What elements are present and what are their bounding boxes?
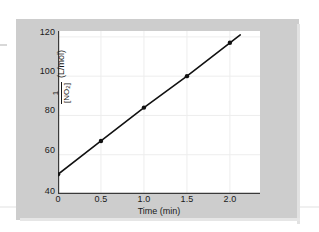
data-point-marker [185, 74, 189, 78]
x-tick-label-2-0: 2.0 [217, 194, 243, 204]
plot-canvas [58, 31, 260, 194]
denominator-open: [NO [62, 89, 71, 103]
x-axis-title: Time (min) [58, 206, 260, 216]
y-axis-units: (L/mol) [56, 50, 66, 78]
y-axis-title: 1 [NO2] (L/mol) [50, 30, 72, 124]
y-axis-numerator: 1 [52, 89, 61, 97]
y-axis-denominator: [NO2] [62, 82, 71, 104]
data-point-marker [99, 139, 103, 143]
plot-area [58, 31, 260, 194]
y-axis-fraction: 1 [NO2] [52, 82, 71, 104]
data-point-marker [228, 41, 232, 45]
x-tick-label-1-0: 1.0 [131, 194, 157, 204]
x-tick-label-0-5: 0.5 [88, 194, 114, 204]
denominator-subscript: 2 [65, 85, 71, 88]
chart-screenshot: 120 100 80 60 40 0 0.5 1.0 1.5 2.0 Time … [0, 0, 319, 232]
x-tick-label-0: 0 [45, 194, 71, 204]
panel-edge-bottom [20, 218, 300, 221]
panel-edge-right [297, 24, 300, 224]
data-line [58, 35, 240, 174]
x-tick-label-1-5: 1.5 [174, 194, 200, 204]
scan-artifact-left [0, 44, 7, 46]
data-point-marker [142, 105, 146, 109]
y-tick-label-60: 60 [33, 145, 55, 155]
